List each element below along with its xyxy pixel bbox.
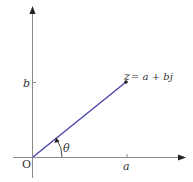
argand-diagram: z = a + bj b a O θ [0,0,193,182]
angle-label: θ [63,142,70,155]
x-axis-arrow-icon [178,155,186,161]
x-tick-label: a [123,160,130,173]
vector-oz [33,82,126,157]
point-z-name: z [123,70,130,83]
point-z-equation: = a + bj [131,71,173,82]
y-axis-arrow-icon [30,6,36,14]
angle-arc [57,140,62,157]
y-tick-label: b [23,77,30,90]
origin-label: O [22,158,31,171]
